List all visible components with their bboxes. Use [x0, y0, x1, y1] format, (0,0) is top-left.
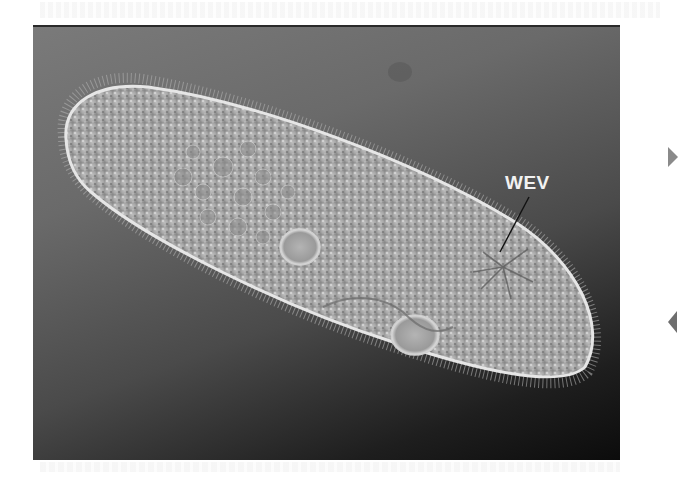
faded-text-above: [40, 2, 660, 18]
vacuole-upper: [280, 229, 320, 265]
faded-caption-text: [40, 462, 620, 472]
micrograph-image: WEV: [33, 25, 620, 460]
arrow-right-icon: [668, 147, 678, 167]
cell-body: [66, 86, 593, 377]
vacuole-lower: [391, 315, 439, 355]
arrow-left-icon: [668, 311, 677, 333]
paramecium-illustration: [33, 27, 620, 460]
annotation-label-wev: WEV: [505, 172, 550, 194]
